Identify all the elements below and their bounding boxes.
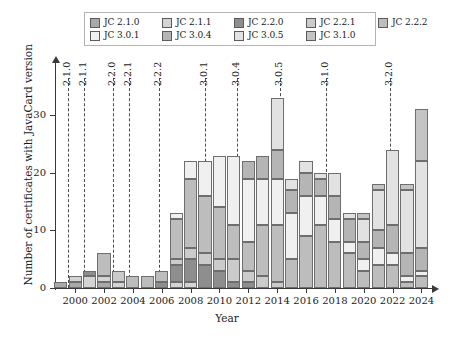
bar-segment	[400, 184, 413, 190]
bar-segment	[213, 271, 226, 288]
bar-1999[interactable]	[54, 282, 67, 288]
bar-segment	[242, 179, 255, 242]
bar-segment	[328, 219, 341, 242]
bar-segment	[69, 276, 82, 282]
bar-segment	[357, 213, 370, 219]
bar-2007[interactable]	[170, 213, 183, 288]
bar-segment	[357, 219, 370, 242]
bar-2003[interactable]	[112, 271, 125, 288]
x-tick-label: 2024	[404, 295, 438, 306]
bar-2000[interactable]	[69, 276, 82, 288]
bar-segment	[400, 253, 413, 276]
bar-segment	[400, 282, 413, 288]
bar-segment	[227, 156, 240, 225]
bar-2006[interactable]	[155, 271, 168, 288]
x-tick	[364, 289, 365, 293]
x-tick	[393, 289, 394, 293]
bar-segment	[126, 276, 139, 288]
bar-segment	[242, 242, 255, 271]
bar-2014[interactable]	[271, 98, 284, 288]
bar-2009[interactable]	[198, 161, 211, 288]
bar-2013[interactable]	[256, 156, 269, 288]
bar-segment	[170, 213, 183, 219]
bar-segment	[415, 276, 428, 288]
x-tick	[219, 289, 220, 293]
bar-segment	[386, 150, 399, 225]
bar-2005[interactable]	[141, 276, 154, 288]
bar-segment	[285, 190, 298, 213]
bar-segment	[198, 196, 211, 254]
bar-segment	[372, 190, 385, 230]
bar-2023[interactable]	[400, 184, 413, 288]
x-axis-label: Year	[0, 313, 454, 324]
bar-segment	[328, 196, 341, 219]
x-tick	[421, 289, 422, 293]
bar-segment	[285, 179, 298, 191]
bar-segment	[256, 156, 269, 179]
bar-segment	[271, 179, 284, 225]
bar-2001[interactable]	[83, 271, 96, 288]
bar-segment	[198, 265, 211, 288]
x-tick	[75, 289, 76, 293]
bar-segment	[155, 282, 168, 288]
bar-2004[interactable]	[126, 276, 139, 288]
bar-segment	[256, 225, 269, 277]
bar-segment	[415, 161, 428, 247]
bar-2015[interactable]	[285, 179, 298, 288]
bar-segment	[357, 259, 370, 271]
bar-segment	[83, 271, 96, 277]
bar-segment	[184, 179, 197, 248]
bar-2010[interactable]	[213, 156, 226, 288]
bar-segment	[357, 271, 370, 288]
bar-2024[interactable]	[415, 109, 428, 288]
bar-segment	[299, 196, 312, 236]
bar-segment	[184, 282, 197, 288]
x-tick	[191, 289, 192, 293]
bar-2011[interactable]	[227, 156, 240, 288]
bar-2016[interactable]	[299, 161, 312, 288]
bar-segment	[343, 253, 356, 288]
bar-segment	[372, 184, 385, 190]
bar-segment	[184, 161, 197, 178]
bar-segment	[343, 242, 356, 254]
x-tick	[306, 289, 307, 293]
y-axis-label: Number of certificates with JavaCard ver…	[23, 46, 34, 286]
bar-segment	[83, 276, 96, 288]
bar-segment	[372, 265, 385, 288]
bar-2022[interactable]	[386, 150, 399, 288]
bar-segment	[213, 207, 226, 259]
bar-segment	[271, 98, 284, 150]
bar-2020[interactable]	[357, 213, 370, 288]
bar-segment	[213, 259, 226, 271]
bar-segment	[285, 213, 298, 259]
bar-segment	[314, 196, 327, 225]
bar-segment	[314, 173, 327, 179]
bar-segment	[400, 276, 413, 282]
bar-segment	[227, 225, 240, 260]
bar-segment	[97, 276, 110, 282]
bar-segment	[112, 282, 125, 288]
bar-segment	[256, 276, 269, 288]
bar-segment	[170, 265, 183, 282]
bar-segment	[415, 248, 428, 271]
bar-2019[interactable]	[343, 213, 356, 288]
bar-segment	[170, 259, 183, 265]
bar-segment	[170, 282, 183, 288]
bar-2012[interactable]	[242, 161, 255, 288]
bar-segment	[170, 219, 183, 259]
bar-2021[interactable]	[372, 184, 385, 288]
bar-segment	[314, 179, 327, 196]
x-tick	[335, 289, 336, 293]
bar-segment	[184, 248, 197, 260]
bar-segment	[271, 282, 284, 288]
bar-2002[interactable]	[97, 253, 110, 288]
bar-2017[interactable]	[314, 173, 327, 288]
bar-segment	[112, 271, 125, 283]
bar-2008[interactable]	[184, 161, 197, 288]
bar-segment	[242, 161, 255, 178]
bar-segment	[372, 230, 385, 247]
bar-group	[0, 0, 454, 289]
bar-segment	[343, 219, 356, 242]
bar-2018[interactable]	[328, 173, 341, 288]
bar-segment	[386, 253, 399, 265]
